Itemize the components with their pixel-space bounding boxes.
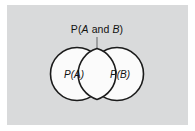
intersection-label-a: A: [81, 23, 89, 35]
intersection-label-connector: and: [89, 23, 113, 35]
venn-diagram-figure: P(A and B) P(A) P(B): [0, 0, 195, 131]
intersection-label-prefix: P(: [71, 23, 82, 35]
set-b-label: P(B): [110, 69, 130, 80]
venn-diagram-canvas: P(A and B) P(A) P(B): [0, 0, 195, 131]
intersection-label-b: B: [112, 23, 119, 35]
set-b-label-suffix: ): [126, 69, 130, 80]
set-a-label: P(A): [64, 69, 84, 80]
intersection-label-suffix: ): [120, 23, 124, 35]
set-a-label-suffix: ): [80, 69, 84, 80]
intersection-label: P(A and B): [71, 23, 123, 35]
